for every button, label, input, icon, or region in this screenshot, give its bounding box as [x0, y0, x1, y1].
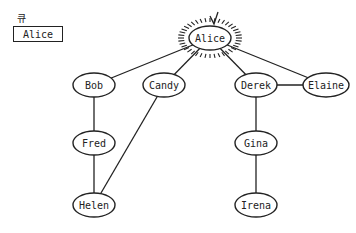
node-label: Elaine	[308, 80, 344, 91]
node-label: Derek	[241, 80, 271, 91]
node-helen[interactable]: Helen	[73, 193, 115, 217]
node-label: Gina	[244, 138, 268, 149]
node-fred[interactable]: Fred	[73, 131, 115, 155]
edges	[94, 38, 326, 205]
node-bob[interactable]: Bob	[73, 73, 115, 97]
node-derek[interactable]: Derek	[235, 73, 277, 97]
node-label: Alice	[195, 33, 225, 44]
node-label: Fred	[82, 138, 106, 149]
node-irena[interactable]: Irena	[235, 193, 277, 217]
node-label: Helen	[79, 200, 109, 211]
node-alice[interactable]: Alice	[189, 26, 231, 50]
node-label: Bob	[85, 80, 103, 91]
nodes: AliceBobCandyDerekElaineFredGinaHelenIre…	[73, 26, 349, 217]
node-gina[interactable]: Gina	[235, 131, 277, 155]
graph-diagram: AliceBobCandyDerekElaineFredGinaHelenIre…	[0, 0, 356, 233]
pointer-arrow-icon	[210, 12, 218, 24]
node-label: Irena	[241, 200, 271, 211]
node-candy[interactable]: Candy	[143, 73, 185, 97]
node-elaine[interactable]: Elaine	[303, 73, 349, 97]
node-label: Candy	[149, 80, 179, 91]
